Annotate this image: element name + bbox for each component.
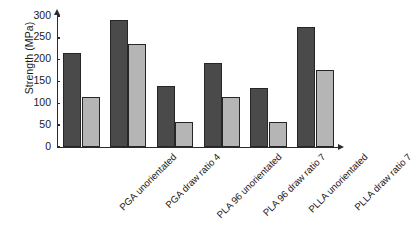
bar-chart: Strength (MPa) 050100150200250300 PGA un… <box>0 0 345 250</box>
x-axis-labels: PGA unorientatedPGA draw ratio 4PLA 96 u… <box>0 0 345 250</box>
